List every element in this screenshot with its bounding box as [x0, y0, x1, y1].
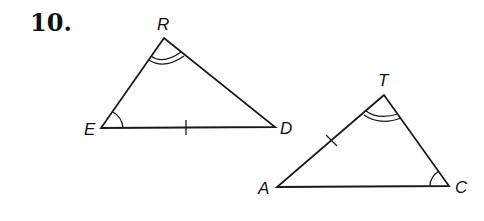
- vertex-label-c: C: [455, 178, 468, 197]
- angle-c-arc: [430, 171, 439, 186]
- vertex-label-d: D: [280, 119, 292, 138]
- vertex-label-r: R: [157, 15, 169, 34]
- vertex-label-t: T: [378, 71, 390, 90]
- triangle-tac: [277, 95, 449, 187]
- vertex-label-e: E: [84, 120, 96, 139]
- vertex-label-a: A: [257, 179, 269, 198]
- congruent-triangles-diagram: R E D T A C: [0, 0, 484, 221]
- triangle-red: [101, 38, 275, 128]
- angle-r-double-arc-inner: [149, 56, 184, 64]
- angle-r-double-arc: [151, 52, 181, 60]
- angle-e-arc: [113, 112, 123, 128]
- angle-t-double-arc: [366, 111, 398, 116]
